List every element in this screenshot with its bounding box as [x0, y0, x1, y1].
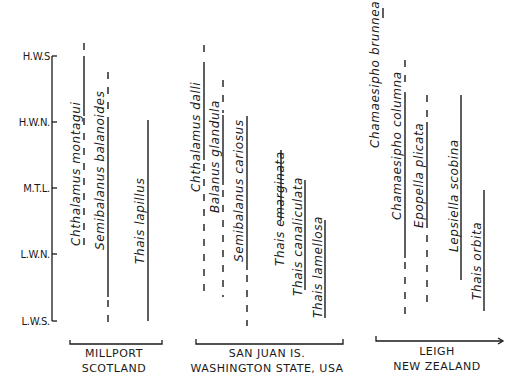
label-t-lamellosa: Thais lamellosa — [311, 216, 325, 318]
bracket-san-juan — [196, 339, 343, 344]
label-c-columna: Chamaesipho columna — [390, 71, 404, 220]
bracket-millport — [70, 340, 162, 344]
label-t-emarginata: Thais emarginata — [273, 151, 287, 266]
site-region-leigh: NEW ZEALAND — [393, 360, 481, 373]
site-name-leigh: LEIGH — [419, 345, 455, 358]
label-c-dalli: Chthalamus dalli — [189, 82, 203, 192]
site-leigh: Chamaesipho brunnea Chamaesipho columna … — [368, 1, 503, 373]
label-s-cariosus: Semibalanus cariosus — [232, 119, 246, 262]
site-san-juan: Chthalamus dalli Balanus glandula Semiba… — [189, 45, 344, 375]
tick-label-lwn: L.W.N. — [20, 249, 50, 260]
label-s-balanoides: Semibalanus balanoides — [93, 91, 107, 250]
tide-axis: H.W.S H.W.N. M.T.L. L.W.N. L.W.S. — [19, 51, 57, 327]
label-t-canaliculata: Thais canaliculata — [291, 177, 305, 296]
tick-label-mtl: M.T.L. — [23, 183, 50, 194]
label-t-orbita: Thais orbita — [470, 222, 484, 300]
site-name-millport: MILLPORT — [85, 347, 143, 360]
site-millport: Chthalamus montagui Semibalanus balanoid… — [69, 43, 162, 375]
label-c-brunnea: Chamaesipho brunnea — [368, 1, 382, 148]
label-l-scobina: Lepsiella scobina — [447, 139, 461, 252]
tick-label-hwn: H.W.N. — [19, 117, 50, 128]
label-b-glandula: Balanus glandula — [208, 100, 222, 213]
tick-label-lws: L.W.S. — [22, 316, 51, 327]
label-t-lapillus: Thais lapillus — [133, 178, 147, 264]
label-e-plicata: Epopella plicata — [412, 123, 426, 228]
site-name-san-juan: SAN JUAN IS. — [229, 347, 306, 360]
bracket-leigh — [376, 336, 502, 341]
label-c-montagui: Chthalamus montagui — [69, 102, 83, 246]
zonation-diagram: H.W.S H.W.N. M.T.L. L.W.N. L.W.S. Chthal… — [0, 0, 519, 387]
tick-label-hws: H.W.S — [23, 51, 50, 62]
site-region-san-juan: WASHINGTON STATE, USA — [190, 362, 343, 375]
site-region-millport: SCOTLAND — [82, 362, 147, 375]
